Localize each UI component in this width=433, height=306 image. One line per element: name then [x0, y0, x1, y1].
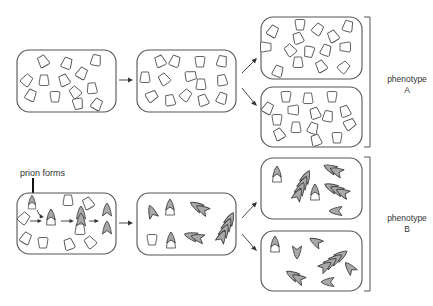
cell-box-bottom-2	[137, 193, 237, 255]
cell-box-top-4	[261, 87, 362, 147]
prion-forms-label: prion forms	[20, 168, 65, 179]
cell-box-bottom-3	[261, 158, 362, 219]
phenotype-b-label: phenotype B	[381, 213, 433, 235]
cell-box-bottom-1	[17, 193, 116, 254]
arrow-bottom-split-down	[242, 234, 257, 251]
phenotype-b-line2: B	[381, 224, 433, 235]
arrow-top-split-down	[242, 88, 257, 106]
phenotype-b-line1: phenotype	[381, 213, 433, 224]
phenotype-a-line2: A	[381, 85, 433, 96]
arrow-bottom-1	[119, 221, 133, 226]
prion-diagram	[0, 0, 433, 306]
bracket-phenotype-a	[364, 17, 370, 147]
cell-box-top-3	[261, 17, 363, 79]
phenotype-a-line1: phenotype	[381, 74, 433, 85]
arrow-top-1	[119, 78, 133, 83]
bracket-phenotype-b	[364, 157, 370, 291]
arrow-top-split-up	[242, 58, 257, 73]
cell-box-bottom-4	[261, 231, 362, 291]
phenotype-a-label: phenotype A	[381, 74, 433, 96]
cell-box-top-2	[137, 50, 236, 112]
arrow-bottom-split-up	[242, 202, 257, 218]
cell-box-top-1	[17, 50, 116, 112]
